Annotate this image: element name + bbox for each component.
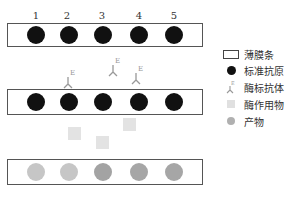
legend-label: 产物	[244, 114, 264, 129]
substrate-square	[96, 136, 109, 149]
antigen-dot	[94, 26, 112, 44]
legend-label: 标准抗原	[244, 63, 284, 78]
antigen-dot	[27, 93, 45, 111]
substrate-square-icon	[222, 100, 240, 108]
antigen-dot	[27, 26, 45, 44]
legend-item-substrate: 酶作用物	[222, 97, 284, 111]
membrane-strip-middle	[7, 89, 203, 115]
substrate-square	[123, 118, 136, 131]
antigen-dot	[60, 26, 78, 44]
antigen-dot	[165, 26, 183, 44]
enzyme-antibody-icon: E	[108, 55, 124, 81]
legend-item-strip: 薄膜条	[222, 47, 274, 61]
product-dot	[130, 163, 148, 181]
legend-item-antigen: 标准抗原	[222, 63, 284, 77]
antigen-dot	[130, 93, 148, 111]
product-dot-icon	[222, 117, 240, 125]
product-dot	[60, 163, 78, 181]
legend-item-product: 产物	[222, 114, 264, 128]
enzyme-antibody-icon: E	[131, 63, 147, 89]
substrate-square	[68, 127, 81, 140]
svg-text:E: E	[231, 80, 235, 86]
product-dot	[165, 163, 183, 181]
product-dot	[27, 163, 45, 181]
antigen-dot	[130, 26, 148, 44]
strip-number-3: 3	[96, 10, 108, 21]
strip-rect-icon	[222, 50, 240, 59]
enzyme-label: E	[70, 69, 75, 77]
enzyme-antibody-icon: E	[222, 80, 240, 94]
strip-number-2: 2	[61, 10, 73, 21]
legend-label: 薄膜条	[244, 47, 274, 62]
antigen-dot-icon	[222, 66, 240, 75]
antigen-dot	[94, 93, 112, 111]
strip-number-5: 5	[168, 10, 180, 21]
svg-text:E: E	[138, 65, 143, 73]
membrane-strip-top	[7, 23, 203, 47]
product-dot	[94, 163, 112, 181]
strip-number-4: 4	[133, 10, 145, 21]
membrane-strip-bottom	[7, 159, 203, 185]
svg-text:E: E	[115, 57, 120, 65]
legend-label: 酶标抗体	[244, 80, 284, 95]
legend-item-antibody: E 酶标抗体	[222, 80, 284, 94]
antigen-dot	[165, 93, 183, 111]
legend-label: 酶作用物	[244, 97, 284, 112]
strip-number-1: 1	[30, 10, 42, 21]
antigen-dot	[60, 93, 78, 111]
